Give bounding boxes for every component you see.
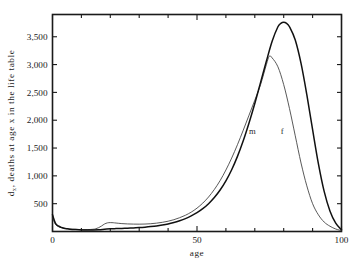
y-tick-label: 3,500 [27,32,48,42]
y-tick-label: 500 [34,199,48,209]
y-tick-label: 1,000 [27,171,48,181]
x-tick-label: 100 [335,235,349,245]
series-line-female [53,22,342,230]
y-tick-label: 3,000 [27,60,48,70]
series-label-female: f [281,126,284,136]
y-tick-label: 2,000 [27,115,48,125]
y-tick-label: 2,500 [27,88,48,98]
deaths-by-age-line-chart: 5001,0001,5002,0002,5003,0003,500 050100… [0,0,349,265]
y-tick-label: 1,500 [27,143,48,153]
x-tick-label: 0 [50,235,55,245]
y-axis-tick-labels: 5001,0001,5002,0002,5003,0003,500 [27,32,48,209]
plot-frame [53,15,342,232]
x-axis-ticks-top [53,15,342,21]
x-tick-label: 50 [192,235,202,245]
y-axis-title-rest: , deaths at age x in the life table [6,50,16,188]
chart-page: 5001,0001,5002,0002,5003,0003,500 050100… [0,0,349,265]
x-axis-title: age [190,248,205,258]
y-axis-title: dx, deaths at age x in the life table [6,50,17,197]
x-axis-tick-labels: 050100 [50,235,349,245]
series-line-male [53,56,342,231]
series-label-male: m [249,126,256,136]
